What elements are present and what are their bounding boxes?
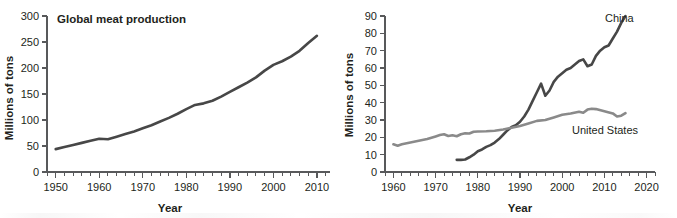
y-axis-title-right: Millions of tons (343, 53, 355, 137)
chart-panel-global-meat-production: 1950196019701980199020002010050100150200… (0, 0, 340, 218)
y-tick-label: 300 (21, 10, 39, 22)
y-tick-label: 0 (33, 166, 39, 178)
left-chart-svg: 1950196019701980199020002010050100150200… (0, 0, 340, 218)
x-tick-label: 2010 (592, 181, 616, 193)
x-tick-label: 1990 (508, 181, 532, 193)
x-tick-label: 2010 (305, 181, 329, 193)
x-tick-label: 1960 (87, 181, 111, 193)
x-tick-label: 1950 (43, 181, 67, 193)
y-tick-label: 50 (27, 140, 39, 152)
series-label-united-states: United States (572, 124, 639, 136)
y-tick-label: 200 (21, 62, 39, 74)
y-tick-label: 70 (365, 45, 377, 57)
x-tick-label: 1990 (218, 181, 242, 193)
y-tick-label: 50 (365, 79, 377, 91)
y-tick-label: 100 (21, 114, 39, 126)
series-line-china (457, 16, 626, 160)
y-tick-label: 10 (365, 149, 377, 161)
y-axis-title-left: Millions of tons (3, 56, 15, 140)
series-label-china: China (605, 12, 635, 24)
x-tick-label: 1970 (423, 181, 447, 193)
y-tick-label: 0 (371, 166, 377, 178)
x-tick-label: 1980 (466, 181, 490, 193)
chart-title-left: Global meat production (57, 13, 186, 25)
series-line-global-meat-production (56, 36, 317, 149)
y-tick-label: 30 (365, 114, 377, 126)
y-tick-label: 80 (365, 27, 377, 39)
y-tick-label: 90 (365, 10, 377, 22)
y-tick-label: 60 (365, 62, 377, 74)
left-plot-group: 1950196019701980199020002010050100150200… (21, 10, 330, 193)
x-tick-label: 2000 (261, 181, 285, 193)
x-axis-title-right: Year (508, 202, 533, 214)
y-tick-label: 250 (21, 36, 39, 48)
y-tick-label: 40 (365, 97, 377, 109)
y-tick-label: 20 (365, 131, 377, 143)
two-panel-line-chart-figure: 1950196019701980199020002010050100150200… (0, 0, 677, 218)
x-tick-label: 2000 (550, 181, 574, 193)
x-tick-label: 2020 (634, 181, 658, 193)
x-tick-label: 1980 (174, 181, 198, 193)
x-tick-label: 1970 (131, 181, 155, 193)
y-tick-label: 150 (21, 88, 39, 100)
right-plot-group: 1960197019801990200020102020010203040506… (365, 10, 659, 193)
chart-panel-china-vs-united-states: 1960197019801990200020102020010203040506… (340, 0, 677, 218)
right-chart-svg: 1960197019801990200020102020010203040506… (340, 0, 677, 218)
x-tick-label: 1960 (381, 181, 405, 193)
x-axis-title-left: Year (158, 202, 183, 214)
